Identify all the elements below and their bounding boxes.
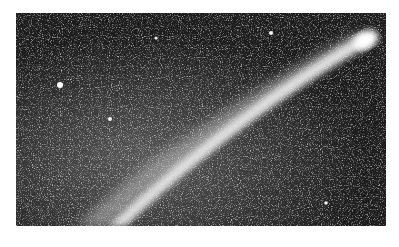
comet-photograph bbox=[16, 13, 386, 226]
comet-image bbox=[16, 13, 386, 226]
